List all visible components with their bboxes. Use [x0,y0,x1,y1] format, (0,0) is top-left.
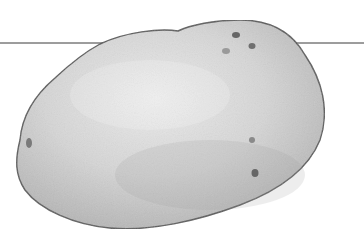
potato-eye-icon [26,138,32,148]
potato-eye-icon [232,32,240,38]
potato-shadow [115,140,305,210]
potato-eye-icon [252,169,259,177]
potato-highlight [70,60,230,130]
potato-eye-icon [249,43,256,49]
potato-scene [0,0,364,237]
potato-illustration [0,0,364,237]
potato-eye-icon [222,48,230,54]
potato-eye-icon [249,137,255,143]
